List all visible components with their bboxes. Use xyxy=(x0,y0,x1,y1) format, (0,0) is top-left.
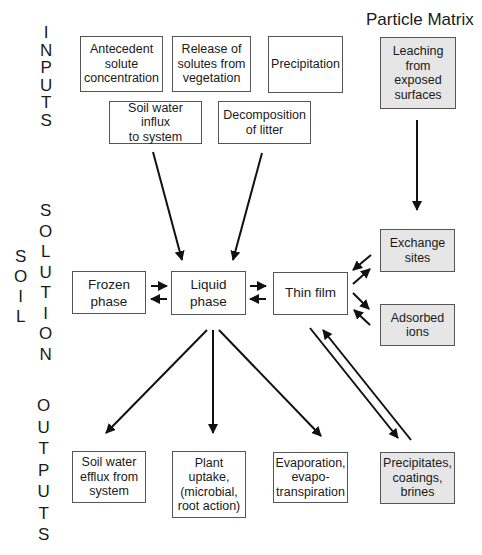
adsorbed-to-thinfilm-arrow xyxy=(354,310,370,325)
flow-arrows xyxy=(0,0,482,555)
thinfilm-to-exchange-arrow xyxy=(353,269,370,284)
influx-to-liquid-arrow xyxy=(153,152,182,260)
exchange-to-thinfilm-arrow xyxy=(353,255,371,270)
precipitates-to-thinfilm-arrow xyxy=(323,330,411,440)
decomposition-to-liquid-arrow xyxy=(233,153,262,260)
liquid-to-efflux-arrow xyxy=(106,330,207,433)
thinfilm-to-adsorbed-arrow xyxy=(353,293,369,309)
liquid-to-evaporation-arrow xyxy=(219,330,321,436)
thinfilm-to-precipitates-arrow xyxy=(310,328,398,438)
